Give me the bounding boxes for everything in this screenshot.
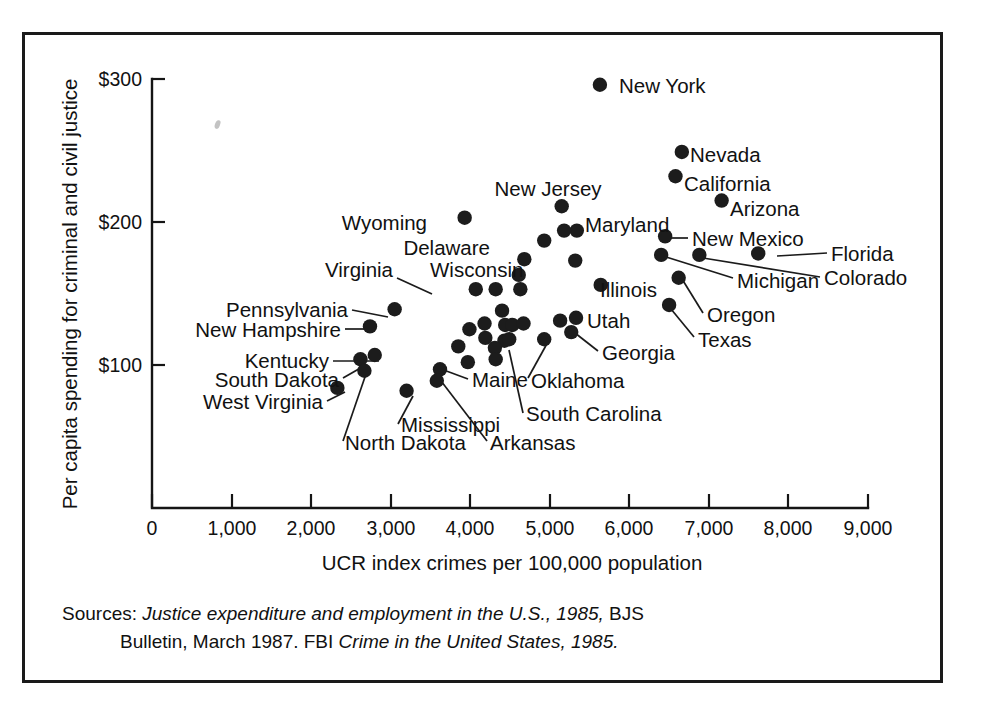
point-label-delaware: Delaware xyxy=(403,236,490,259)
y-axis-title: Per capita spending for criminal and civ… xyxy=(58,79,81,510)
x-tick-label-1000: 1,000 xyxy=(208,517,257,539)
data-point xyxy=(451,339,465,353)
x-tick-label-5000: 5,000 xyxy=(526,517,575,539)
leader-florida xyxy=(777,253,827,256)
data-point xyxy=(516,316,530,330)
sources-line2: Bulletin, March 1987. FBI Crime in the U… xyxy=(62,628,762,656)
point-label-texas: Texas xyxy=(698,328,752,351)
data-point xyxy=(593,78,607,92)
point-label-new-york: New York xyxy=(619,74,706,97)
point-label-maine: Maine xyxy=(472,368,528,391)
data-point xyxy=(714,193,728,207)
leader-georgia xyxy=(575,333,598,351)
x-tick-label-4000: 4,000 xyxy=(446,517,495,539)
y-tick-labels: $300 $200 $100 xyxy=(99,68,143,376)
point-label-arizona: Arizona xyxy=(730,197,800,220)
point-label-maryland: Maryland xyxy=(585,213,669,236)
leader-virginia xyxy=(397,278,432,294)
data-point xyxy=(469,282,483,296)
x-tick-label-0: 0 xyxy=(147,517,158,539)
sources-line2-italic: Crime in the United States, 1985. xyxy=(339,631,619,652)
data-point xyxy=(668,169,682,183)
point-labels: New York Nevada California Arizona New J… xyxy=(195,74,907,454)
sources-prefix: Sources: xyxy=(62,603,137,624)
point-label-florida: Florida xyxy=(831,242,894,265)
data-point xyxy=(569,311,583,325)
point-label-new-jersey: New Jersey xyxy=(494,177,602,200)
point-label-new-mexico: New Mexico xyxy=(692,227,804,250)
data-point xyxy=(477,316,491,330)
leader-oregon xyxy=(682,279,703,313)
data-point xyxy=(457,211,471,225)
data-point xyxy=(502,332,516,346)
x-tick-labels: 0 1,000 2,000 3,000 4,000 5,000 6,000 7,… xyxy=(147,517,893,539)
point-label-west-virginia: West Virginia xyxy=(203,390,324,413)
y-tick-label-100: $100 xyxy=(99,354,143,376)
point-label-south-carolina: South Carolina xyxy=(526,402,662,425)
point-label-arkansas: Arkansas xyxy=(490,431,575,454)
data-point xyxy=(557,223,571,237)
data-point xyxy=(537,332,551,346)
leader-pennsylvania xyxy=(352,310,388,317)
point-label-illinois: Illinois xyxy=(600,278,657,301)
point-label-mississippi: Mississippi xyxy=(401,413,500,436)
y-tick-label-200: $200 xyxy=(99,211,143,233)
point-label-wisconsin: Wisconsin xyxy=(430,258,523,281)
x-tick-label-2000: 2,000 xyxy=(287,517,336,539)
point-label-colorado: Colorado xyxy=(824,266,907,289)
point-label-new-hampshire: New Hampshire xyxy=(195,318,341,341)
point-label-oklahoma: Oklahoma xyxy=(531,369,625,392)
data-point xyxy=(555,199,569,213)
sources-line1-italic: Justice expenditure and employment in th… xyxy=(142,603,604,624)
point-label-utah: Utah xyxy=(587,309,630,332)
data-point xyxy=(553,313,567,327)
point-label-virginia: Virginia xyxy=(325,258,394,281)
point-label-california: California xyxy=(684,172,771,195)
data-point xyxy=(671,271,685,285)
leader-texas xyxy=(671,309,694,337)
x-tick-label-8000: 8,000 xyxy=(764,517,813,539)
point-label-nevada: Nevada xyxy=(690,143,761,166)
data-point xyxy=(357,364,371,378)
x-tick-label-6000: 6,000 xyxy=(605,517,654,539)
data-point xyxy=(568,253,582,267)
data-point xyxy=(368,348,382,362)
x-tick-label-7000: 7,000 xyxy=(685,517,734,539)
point-label-georgia: Georgia xyxy=(602,341,676,364)
data-point xyxy=(495,303,509,317)
data-point xyxy=(564,325,578,339)
data-point xyxy=(662,298,676,312)
sources-line1-roman: BJS xyxy=(604,603,644,624)
data-point xyxy=(537,233,551,247)
point-label-michigan: Michigan xyxy=(737,269,819,292)
data-point xyxy=(387,302,401,316)
point-label-wyoming: Wyoming xyxy=(342,211,427,234)
data-point xyxy=(399,384,413,398)
y-tick-label-300: $300 xyxy=(99,68,143,90)
data-point xyxy=(488,282,502,296)
data-point xyxy=(462,322,476,336)
data-point xyxy=(654,248,668,262)
sources-line2-roman: Bulletin, March 1987. FBI xyxy=(120,631,339,652)
point-label-south-dakota: South Dakota xyxy=(215,368,340,391)
data-point xyxy=(430,374,444,388)
point-label-oregon: Oregon xyxy=(707,303,775,326)
data-point xyxy=(363,319,377,333)
x-tick-label-3000: 3,000 xyxy=(367,517,416,539)
data-point xyxy=(488,352,502,366)
x-tick-label-9000: 9,000 xyxy=(844,517,893,539)
figure-root: $300 $200 $100 0 1,000 2,000 3,000 4,000… xyxy=(0,0,991,712)
x-axis-title: UCR index crimes per 100,000 population xyxy=(322,551,703,574)
data-point xyxy=(675,145,689,159)
sources-note: Sources: Justice expenditure and employm… xyxy=(62,600,762,655)
data-point xyxy=(513,282,527,296)
data-point xyxy=(570,223,584,237)
